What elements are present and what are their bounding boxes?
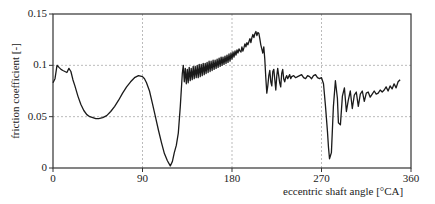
x-tick-label: 0 bbox=[38, 172, 68, 184]
grid-lines bbox=[53, 14, 411, 168]
x-tick-label: 360 bbox=[396, 172, 426, 184]
friction-coefficient-line bbox=[53, 32, 400, 166]
y-axis-label: friction coefficient [-] bbox=[9, 26, 21, 156]
y-tick-label: 0.1 bbox=[0, 58, 47, 70]
y-tick-label: 0.05 bbox=[0, 110, 47, 122]
x-axis-label: eccentric shaft angle [°CA] bbox=[283, 185, 403, 197]
x-tick-label: 90 bbox=[128, 172, 158, 184]
y-tick-label: 0.15 bbox=[0, 7, 47, 19]
x-tick-label: 180 bbox=[217, 172, 247, 184]
x-tick-label: 270 bbox=[307, 172, 337, 184]
